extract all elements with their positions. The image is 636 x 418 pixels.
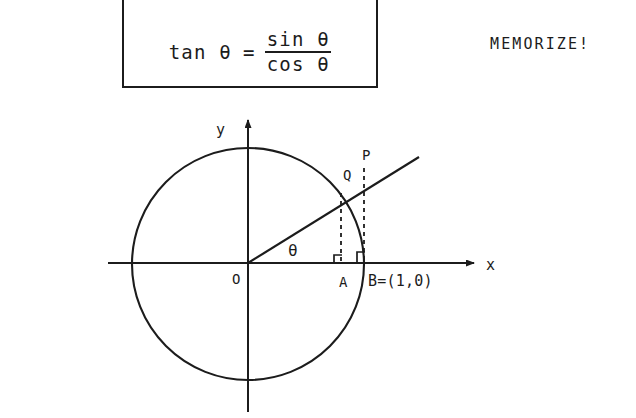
formula-denominator: cos θ [266,53,331,76]
formula-expression: tan θ = sin θ cos θ [124,14,376,90]
y-axis-label: y [216,123,225,138]
origin-label: O [232,272,240,286]
point-b-label: B=(1,0) [368,274,433,289]
point-a-label: A [339,275,347,289]
formula-fraction: sin θ cos θ [265,28,331,76]
formula-box: tan θ = sin θ cos θ [122,0,378,88]
memorize-note: MEMORIZE! [490,35,590,53]
angle-theta-label: θ [288,243,298,259]
formula-equals-sign: = [241,41,256,63]
formula-numerator: sin θ [266,28,331,51]
formula-left-side: tan θ [169,41,232,63]
terminal-ray [248,157,419,263]
point-q-label: Q [343,168,351,182]
x-axis-label: x [486,258,495,273]
point-p-label: P [362,148,370,162]
